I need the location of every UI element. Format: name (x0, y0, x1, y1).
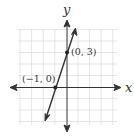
point-label-neg1-0: (−1, 0) (22, 73, 56, 84)
y-axis (64, 20, 70, 132)
y-axis-up-arrow-icon (64, 20, 70, 27)
y-axis-down-arrow-icon (64, 125, 70, 132)
point-neg1-0 (53, 86, 57, 90)
x-axis-label: x (125, 80, 133, 95)
x-axis-right-arrow-icon (114, 85, 121, 91)
coordinate-plane: y x (0, 3) (−1, 0) (0, 0, 134, 136)
point-0-3 (65, 51, 69, 55)
y-axis-label: y (62, 2, 71, 17)
x-axis-left-arrow-icon (10, 85, 17, 91)
x-axis (10, 85, 121, 91)
point-label-0-3: (0, 3) (71, 46, 97, 57)
